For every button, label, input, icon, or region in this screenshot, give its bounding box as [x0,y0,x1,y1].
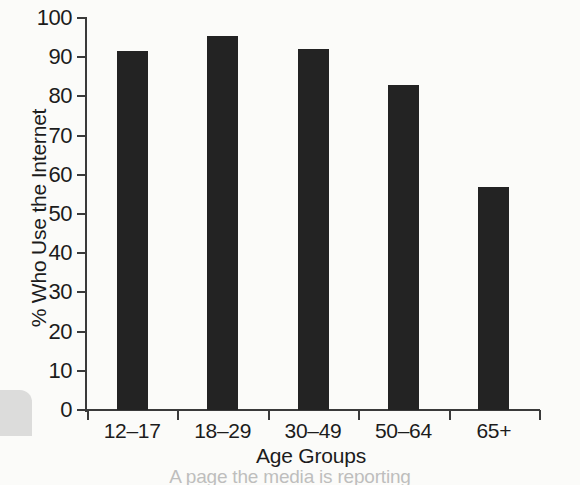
x-category-label: 65+ [434,420,554,441]
bar [117,51,148,410]
x-tick-mark [449,410,451,420]
y-tick-mark [77,95,86,97]
y-tick-mark [77,331,86,333]
partial-caption: A page the media is reporting [0,470,580,485]
y-tick-mark [77,174,86,176]
bar [388,85,419,410]
y-tick-mark [77,291,86,293]
x-tick-mark [268,410,270,420]
y-tick-label: 0 [0,399,72,421]
bar [207,36,238,410]
x-tick-mark-end [539,410,541,420]
y-tick-mark [77,135,86,137]
x-tick-mark [177,410,179,420]
y-tick-label: 100 [0,7,72,29]
bar [298,49,329,410]
x-tick-mark [358,410,360,420]
y-axis-title: % Who Use the Internet [27,53,51,383]
y-tick-mark [77,213,86,215]
x-tick-mark [87,410,89,420]
caption-clip: A page the media is reporting [0,470,580,485]
bar [478,187,509,410]
y-tick-mark [77,370,86,372]
y-tick-mark [77,409,86,411]
y-tick-mark [77,17,86,19]
y-tick-mark [77,56,86,58]
x-axis-title: Age Groups [0,444,580,468]
y-tick-mark [77,252,86,254]
bars-layer [87,18,539,410]
bar-chart-figure: 0102030405060708090100 12–1718–2930–4950… [0,0,580,485]
x-axis-title-text: Age Groups [256,444,366,468]
